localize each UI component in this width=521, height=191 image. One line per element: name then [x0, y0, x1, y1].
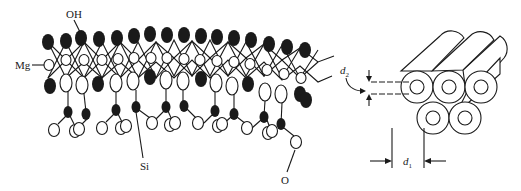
- d1-label: d1: [403, 155, 413, 170]
- tube-2-outer: [433, 71, 465, 103]
- d2-label: d2: [340, 64, 350, 79]
- o-leader: [287, 150, 295, 172]
- tube-4-outer: [417, 102, 449, 134]
- oh-label: OH: [66, 8, 82, 20]
- tube-3-outer: [465, 71, 497, 103]
- figure: OH Mg Si O: [0, 0, 521, 191]
- si-label: Si: [140, 160, 149, 172]
- si-leader: [136, 112, 143, 158]
- tube-5-outer: [449, 102, 481, 134]
- chrysotile-sheet-diagram: OH Mg Si O: [15, 8, 334, 186]
- oh-leader: [74, 20, 80, 32]
- o-label: O: [281, 174, 289, 186]
- tube-ends-top-row: [401, 71, 497, 103]
- tube-1-outer: [401, 71, 433, 103]
- nanotube-bundle-diagram: d2 d1: [340, 31, 507, 170]
- figure-svg: OH Mg Si O: [0, 0, 521, 191]
- mg-label: Mg: [15, 59, 31, 71]
- oh-top-row: [42, 26, 311, 58]
- d2-dimension: [346, 70, 410, 106]
- tube-ends-bottom-row: [417, 102, 481, 134]
